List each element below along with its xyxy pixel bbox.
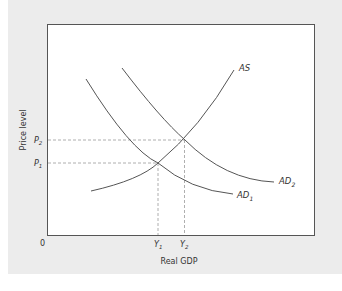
y2-tick-label: Y2 (180, 240, 189, 250)
ad-as-diagram: AS AD2 AD1 P2 P1 Y1 Y2 0 Real GDP Price … (0, 0, 342, 291)
as-label: AS (238, 63, 251, 73)
p2-tick-label: P2 (34, 136, 43, 146)
plot-frame (48, 25, 315, 236)
x-axis-title: Real GDP (161, 257, 198, 266)
y1-tick-label: Y1 (154, 240, 162, 250)
y-axis-title: Price level (19, 109, 28, 150)
origin-label: 0 (40, 239, 45, 248)
p1-tick-label: P1 (34, 159, 42, 169)
